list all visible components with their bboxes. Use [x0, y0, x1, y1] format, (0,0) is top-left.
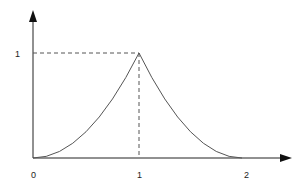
x-tick-label-1: 1 — [137, 170, 142, 180]
curve-falling — [139, 53, 242, 158]
curve-rising — [33, 53, 139, 158]
chart: 0 1 2 1 — [0, 0, 304, 188]
x-axis-arrow-icon — [280, 154, 292, 162]
y-tick-label-1: 1 — [15, 49, 20, 59]
x-tick-label-2: 2 — [244, 170, 249, 180]
x-tick-label-0: 0 — [31, 170, 36, 180]
y-axis-arrow-icon — [29, 10, 37, 22]
